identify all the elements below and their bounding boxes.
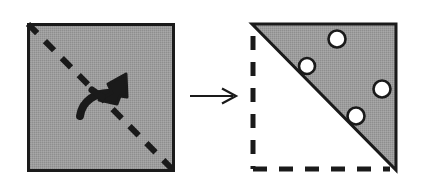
paper-folding-figure bbox=[0, 0, 424, 189]
left-panel-group bbox=[28, 24, 173, 170]
folded-triangle bbox=[252, 24, 396, 170]
right-panel-group bbox=[252, 24, 396, 170]
transition-arrow-icon bbox=[190, 89, 236, 104]
figure-canvas bbox=[0, 0, 424, 189]
punched-hole-3 bbox=[374, 81, 391, 98]
punched-hole-1 bbox=[329, 31, 346, 48]
punched-hole-2 bbox=[299, 58, 315, 74]
punched-hole-4 bbox=[348, 108, 365, 125]
